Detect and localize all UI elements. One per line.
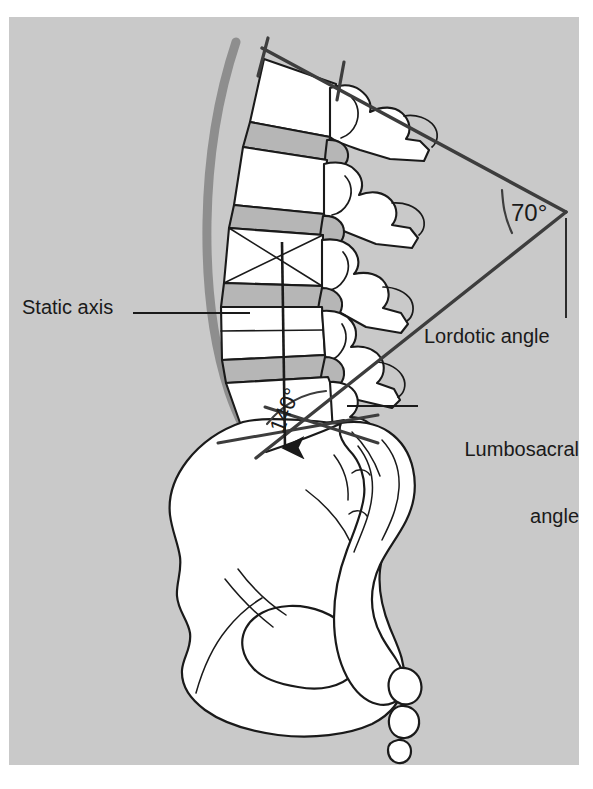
vertebrae-group <box>221 59 437 480</box>
static-axis-label: Static axis <box>22 296 113 318</box>
disc-L3-L4 <box>221 283 322 307</box>
lumbosacral-angle-label-line1: Lumbosacral <box>424 438 579 460</box>
lumbosacral-angle-label: Lumbosacral angle <box>424 393 579 572</box>
lordotic-angle-label: Lordotic angle <box>424 325 550 347</box>
coccyx-segment-2 <box>389 706 419 738</box>
L4-mid-line <box>221 330 323 331</box>
coccyx-segment-1 <box>389 668 422 704</box>
pelvis-group <box>170 419 422 763</box>
L2-body <box>234 147 327 214</box>
lumbosacral-angle-label-line2: angle <box>424 505 579 527</box>
illustration-page: 70° 140° Static axis Lordotic angle Lumb… <box>0 0 593 789</box>
coccyx-segment-3 <box>388 740 411 763</box>
L4-body <box>221 307 325 360</box>
lordotic-angle-value: 70° <box>511 199 547 226</box>
